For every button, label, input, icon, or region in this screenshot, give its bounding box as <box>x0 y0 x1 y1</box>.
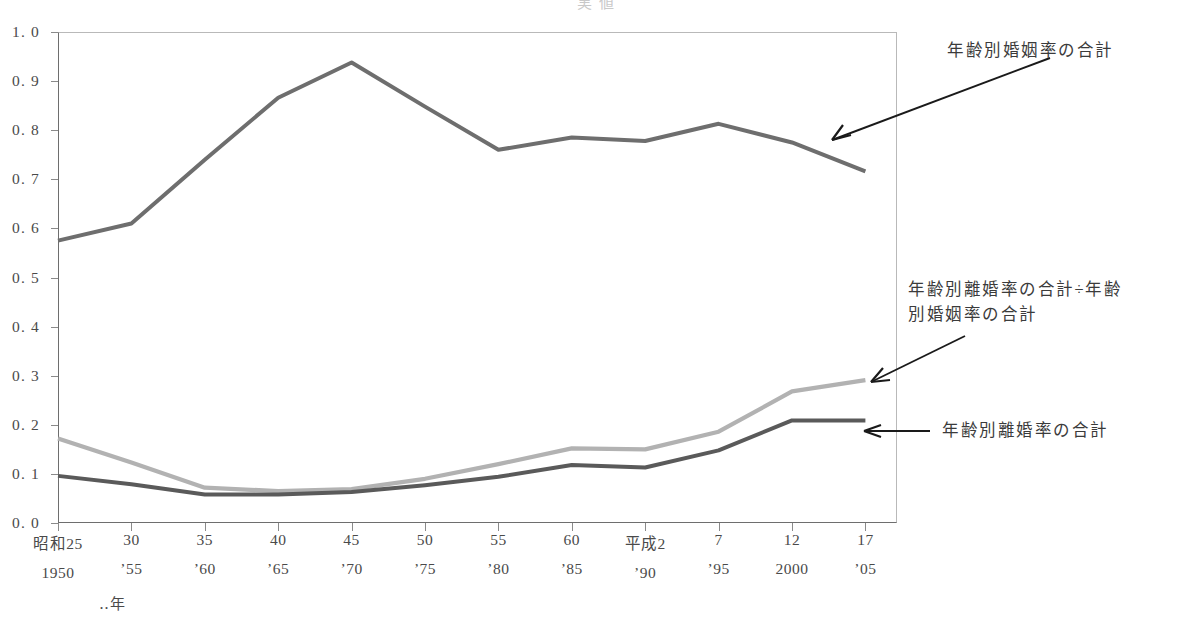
x-tick-label: 7’95 <box>708 531 730 578</box>
y-tick-label: 0. 3 <box>12 367 40 385</box>
x-tick-era-label: 12 <box>776 531 809 549</box>
x-tick-era-label: 60 <box>561 531 583 549</box>
x-tick-era-label: 30 <box>120 531 142 549</box>
x-tick-label: 昭和251950 <box>33 531 83 582</box>
x-tick-western-label: ’65 <box>267 560 289 578</box>
y-tick-label: 0. 8 <box>12 121 40 139</box>
x-tick-western-label: ’55 <box>120 560 142 578</box>
y-tick-label: 0. 7 <box>12 170 40 188</box>
y-tick-mark <box>51 523 58 524</box>
x-tick-mark <box>58 523 59 531</box>
y-tick-label: 0. 9 <box>12 72 40 90</box>
y-tick-mark <box>51 81 58 82</box>
y-axis-labels: 1. 00. 90. 80. 70. 60. 50. 40. 30. 20. 1… <box>0 0 52 623</box>
x-tick-western-label: ’05 <box>854 560 876 578</box>
x-tick-era-label: 7 <box>708 531 730 549</box>
x-tick-era-label: 50 <box>414 531 436 549</box>
x-tick-label: 40’65 <box>267 531 289 578</box>
x-tick-mark <box>131 523 132 531</box>
x-tick-label: 30’55 <box>120 531 142 578</box>
x-tick-mark <box>498 523 499 531</box>
y-tick-mark <box>51 474 58 475</box>
x-tick-label: 17’05 <box>854 531 876 578</box>
x-tick-western-label: ’75 <box>414 560 436 578</box>
y-tick-mark <box>51 278 58 279</box>
x-tick-label: 平成2’90 <box>625 531 666 582</box>
x-tick-mark <box>865 523 866 531</box>
x-tick-western-label: ’60 <box>194 560 216 578</box>
x-tick-mark <box>792 523 793 531</box>
annotation-divorce-over-marriage: 年齢別離婚率の合計÷年齢 別婚姻率の合計 <box>908 277 1122 327</box>
x-axis-unit-label: ‥年 <box>99 592 126 613</box>
y-tick-label: 0. 5 <box>12 269 40 287</box>
x-tick-western-label: ’70 <box>341 560 363 578</box>
y-tick-mark <box>51 327 58 328</box>
chart-root: 実 値 1. 00. 90. 80. 70. 60. 50. 40. 30. 2… <box>0 0 1193 623</box>
x-tick-mark <box>719 523 720 531</box>
x-tick-era-label: 40 <box>267 531 289 549</box>
y-tick-mark <box>51 32 58 33</box>
x-tick-era-label: 45 <box>341 531 363 549</box>
y-tick-label: 1. 0 <box>12 23 40 41</box>
x-tick-western-label: ’85 <box>561 560 583 578</box>
plot-area <box>58 32 897 523</box>
annotation-marriage-rate: 年齢別婚姻率の合計 <box>947 38 1114 63</box>
x-tick-western-label: ’80 <box>487 560 509 578</box>
x-tick-era-label: 35 <box>194 531 216 549</box>
x-tick-mark <box>645 523 646 531</box>
x-tick-mark <box>425 523 426 531</box>
x-tick-label: 50’75 <box>414 531 436 578</box>
x-tick-mark <box>572 523 573 531</box>
y-tick-label: 0. 2 <box>12 416 40 434</box>
x-tick-era-label: 17 <box>854 531 876 549</box>
x-tick-western-label: 2000 <box>776 560 809 578</box>
y-tick-mark <box>51 425 58 426</box>
y-tick-mark <box>51 179 58 180</box>
y-tick-label: 0. 4 <box>12 318 40 336</box>
x-tick-label: 122000 <box>776 531 809 578</box>
y-tick-mark <box>51 376 58 377</box>
x-tick-label: 45’70 <box>341 531 363 578</box>
y-tick-mark <box>51 130 58 131</box>
x-axis-labels: 昭和25195030’5535’6040’6545’7050’7555’8060… <box>0 531 1193 611</box>
x-tick-western-label: ’90 <box>625 564 666 582</box>
x-tick-label: 55’80 <box>487 531 509 578</box>
x-tick-mark <box>352 523 353 531</box>
x-tick-era-label: 55 <box>487 531 509 549</box>
x-tick-mark <box>205 523 206 531</box>
x-tick-era-label: 昭和25 <box>33 531 83 553</box>
x-tick-western-label: ’95 <box>708 560 730 578</box>
x-tick-label: 35’60 <box>194 531 216 578</box>
x-tick-label: 60’85 <box>561 531 583 578</box>
x-tick-western-label: 1950 <box>33 564 83 582</box>
y-tick-label: 0. 0 <box>12 514 40 532</box>
x-tick-era-label: 平成2 <box>625 531 666 553</box>
x-tick-mark <box>278 523 279 531</box>
annotation-divorce-rate: 年齢別離婚率の合計 <box>942 418 1109 443</box>
y-tick-label: 0. 1 <box>12 465 40 483</box>
chart-title-sliver: 実 値 <box>0 0 1193 12</box>
y-tick-mark <box>51 228 58 229</box>
y-tick-label: 0. 6 <box>12 219 40 237</box>
